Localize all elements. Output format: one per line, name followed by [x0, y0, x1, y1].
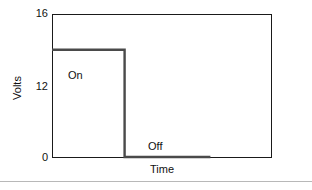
footer-divider [0, 181, 312, 182]
y-tick-label-12: 12 [36, 81, 48, 92]
annotation-on: On [68, 70, 83, 81]
y-tick-label-16: 16 [36, 8, 48, 19]
y-tick-label-0: 0 [42, 152, 48, 163]
x-axis-title: Time [52, 164, 272, 175]
voltage-step-chart: Volts 16 12 0 On Off Time [0, 0, 312, 190]
annotation-off: Off [148, 141, 162, 152]
plot-area-frame [52, 14, 272, 158]
